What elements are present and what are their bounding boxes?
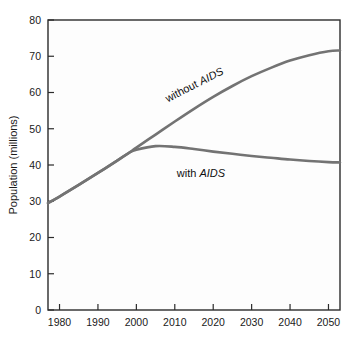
y-tick-label-40: 40 xyxy=(29,159,41,171)
y-tick-label-80: 80 xyxy=(29,14,41,26)
plot-area-background xyxy=(48,20,340,310)
with-aids-label-italic: AIDS xyxy=(198,167,225,179)
population-projection-line-chart: 01020304050607080 1980199020002010202020… xyxy=(0,0,355,339)
y-tick-label-10: 10 xyxy=(29,268,41,280)
with-aids-label-roman: with xyxy=(176,167,200,179)
y-tick-label-30: 30 xyxy=(29,195,41,207)
x-tick-label-2040: 2040 xyxy=(278,316,302,328)
y-axis-tick-labels: 01020304050607080 xyxy=(29,14,41,316)
x-tick-label-2010: 2010 xyxy=(163,316,187,328)
x-tick-label-1990: 1990 xyxy=(86,316,110,328)
with-aids-label: with AIDS xyxy=(176,167,226,179)
y-tick-label-20: 20 xyxy=(29,231,41,243)
x-tick-label-2000: 2000 xyxy=(125,316,149,328)
x-tick-label-2030: 2030 xyxy=(240,316,264,328)
y-axis-title: Population (millions) xyxy=(7,115,19,214)
x-tick-label-2050: 2050 xyxy=(317,316,341,328)
y-tick-label-0: 0 xyxy=(35,304,41,316)
chart-figure: 01020304050607080 1980199020002010202020… xyxy=(0,0,355,339)
x-tick-label-2020: 2020 xyxy=(202,316,226,328)
y-tick-label-60: 60 xyxy=(29,86,41,98)
y-tick-label-70: 70 xyxy=(29,50,41,62)
x-tick-label-1980: 1980 xyxy=(48,316,72,328)
y-tick-label-50: 50 xyxy=(29,123,41,135)
